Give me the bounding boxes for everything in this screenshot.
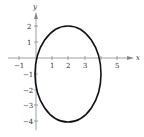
y-tick-labels: 2 1 −1 −2 −3 −4 (23, 23, 34, 126)
svg-text:−4: −4 (23, 118, 34, 126)
x-tick-labels: −1 1 2 3 5 (14, 62, 119, 70)
svg-text:−1: −1 (23, 71, 33, 79)
svg-text:−2: −2 (23, 87, 33, 95)
svg-text:2: 2 (27, 23, 31, 31)
x-axis-arrow-icon (127, 56, 134, 60)
svg-text:1: 1 (50, 62, 54, 70)
svg-text:−1: −1 (14, 62, 24, 70)
svg-text:3: 3 (83, 62, 87, 70)
svg-text:−3: −3 (23, 102, 33, 110)
svg-text:5: 5 (115, 62, 119, 70)
ellipse-curve (35, 26, 101, 122)
x-axis-label: x (136, 54, 140, 62)
ellipse-graph: x y −1 1 2 3 5 2 1 −1 −2 −3 −4 (0, 0, 144, 137)
svg-text:1: 1 (27, 39, 31, 47)
y-axis-arrow-icon (34, 12, 38, 19)
svg-text:2: 2 (66, 62, 70, 70)
y-axis-label: y (32, 3, 38, 11)
